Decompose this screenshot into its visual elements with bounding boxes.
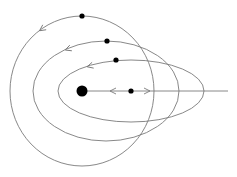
middle-orbit	[33, 38, 179, 141]
radial-body	[128, 88, 133, 93]
orbiting-body	[113, 57, 118, 62]
radial-group	[77, 86, 229, 97]
direction-arrow-icon	[86, 62, 93, 69]
orbiting-body	[79, 13, 84, 18]
orbit-diagram	[0, 0, 237, 177]
central-body	[77, 86, 88, 97]
orbiting-body	[104, 38, 109, 43]
orbits-group	[10, 13, 204, 166]
